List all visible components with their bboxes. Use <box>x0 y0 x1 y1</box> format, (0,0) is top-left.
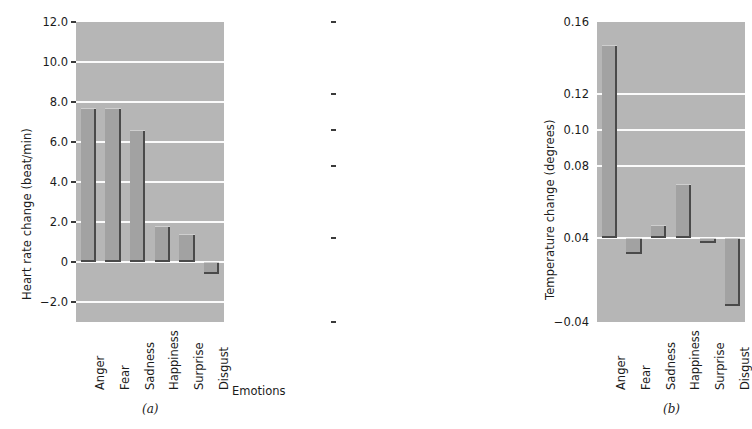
panel-caption-b: (b) <box>663 402 680 416</box>
panel-caption-a: (a) <box>142 402 159 416</box>
y-tick-label: 12.0 <box>42 15 68 29</box>
y-axis-tick-labels-b: 0.160.120.100.080.04−0.04 <box>261 0 593 429</box>
y-tick-label: −2.0 <box>40 295 68 309</box>
chart-panel-a: Heart rate change (beat/min) 12.010.08.0… <box>0 0 261 429</box>
bar-edge-bottom <box>204 272 219 274</box>
y-tick-label: 0.08 <box>563 159 589 173</box>
bar <box>130 130 145 262</box>
y-tick-label: −0.04 <box>554 315 589 329</box>
plot-area-a <box>76 22 224 322</box>
bar <box>204 262 219 274</box>
bar <box>725 238 740 306</box>
y-tick-label: 0.16 <box>563 15 589 29</box>
bar-edge-top <box>155 226 170 227</box>
bar-edge-top <box>204 262 219 263</box>
bar <box>155 226 170 262</box>
bar-edge-right <box>689 184 691 238</box>
x-tick-label: Fear <box>118 365 132 390</box>
y-axis-tick-labels-a: 12.010.08.06.04.02.00−2.0 <box>0 0 72 429</box>
x-tick-label: Fear <box>639 365 653 390</box>
bar <box>81 108 96 262</box>
bar-edge-top <box>626 238 641 239</box>
bar-edge-top <box>602 45 617 46</box>
x-tick-label: Happiness <box>167 330 181 390</box>
x-tick-label: Surprise <box>192 342 206 390</box>
x-tick-label: Sadness <box>143 342 157 390</box>
y-tick-mark <box>71 301 76 303</box>
bar-edge-bottom <box>725 304 740 306</box>
y-tick-mark <box>71 261 76 263</box>
bar-edge-top <box>130 130 145 131</box>
y-tick-label: 6.0 <box>50 135 68 149</box>
bar-edge-top <box>105 108 120 109</box>
y-tick-label: 4.0 <box>50 175 68 189</box>
x-tick-label: Surprise <box>713 342 727 390</box>
y-tick-label: 0.10 <box>563 123 589 137</box>
bar-edge-right <box>738 238 740 306</box>
bar-edge-bottom <box>155 260 170 262</box>
y-tick-label: 10.0 <box>42 55 68 69</box>
bar-edge-top <box>81 108 96 109</box>
y-tick-label: 0 <box>61 255 68 269</box>
bar-edge-right <box>94 108 96 262</box>
bar <box>651 225 666 238</box>
y-tick-mark <box>71 21 76 23</box>
y-tick-mark <box>331 165 336 167</box>
y-tick-label: 2.0 <box>50 215 68 229</box>
bar <box>105 108 120 262</box>
x-axis-title: Emotions <box>232 384 286 398</box>
y-tick-mark <box>71 221 76 223</box>
bar-edge-top <box>700 238 715 239</box>
bar-edge-top <box>179 234 194 235</box>
y-tick-mark <box>331 129 336 131</box>
plot-area-b <box>597 22 745 322</box>
y-tick-mark <box>331 321 336 323</box>
bar-edge-right <box>193 234 195 262</box>
y-tick-mark <box>71 101 76 103</box>
x-tick-label: Anger <box>614 356 628 390</box>
y-tick-mark <box>331 93 336 95</box>
bar-edge-bottom <box>105 260 120 262</box>
x-tick-label: Disgust <box>217 347 231 390</box>
bar <box>700 238 715 243</box>
x-tick-label: Anger <box>93 356 107 390</box>
bar-edge-bottom <box>651 236 666 238</box>
bar-edge-right <box>143 130 145 262</box>
y-tick-mark <box>71 61 76 63</box>
bar-edge-top <box>725 238 740 239</box>
x-tick-label: Disgust <box>738 347 752 390</box>
bar-edge-bottom <box>81 260 96 262</box>
y-tick-label: 8.0 <box>50 95 68 109</box>
y-tick-mark <box>331 21 336 23</box>
y-tick-mark <box>71 181 76 183</box>
bar-edge-bottom <box>626 252 641 254</box>
y-tick-label: 0.12 <box>563 87 589 101</box>
bar <box>676 184 691 238</box>
bar-edge-right <box>615 45 617 238</box>
bar-edge-bottom <box>676 236 691 238</box>
bar <box>626 238 641 254</box>
bar <box>179 234 194 262</box>
bar <box>602 45 617 238</box>
bar-edge-top <box>676 184 691 185</box>
x-tick-label: Sadness <box>664 342 678 390</box>
x-tick-label: Happiness <box>688 330 702 390</box>
bar-edge-bottom <box>602 236 617 238</box>
bar-edge-bottom <box>179 260 194 262</box>
bar-edge-bottom <box>700 241 715 243</box>
chart-panel-b: Temperature change (degrees) 0.160.120.1… <box>261 0 522 429</box>
bar-edge-right <box>168 226 170 262</box>
bar-edge-bottom <box>130 260 145 262</box>
bar-edge-top <box>651 225 666 226</box>
y-tick-mark <box>331 237 336 239</box>
y-tick-label: 0.04 <box>563 231 589 245</box>
bar-edge-right <box>119 108 121 262</box>
y-tick-mark <box>71 141 76 143</box>
